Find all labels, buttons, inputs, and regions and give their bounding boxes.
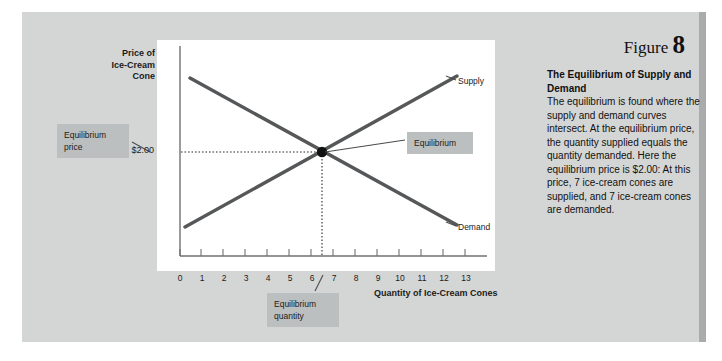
chart-axes-and-curves xyxy=(157,40,495,271)
callout-equilibrium-quantity: Equilibrium quantity xyxy=(267,293,339,327)
x-tick-5: 5 xyxy=(283,273,297,283)
x-tick-1: 1 xyxy=(195,273,209,283)
supply-curve-label: Supply xyxy=(458,76,484,86)
demand-curve-label: Demand xyxy=(458,222,490,232)
equilibrium-point-marker xyxy=(317,147,327,157)
x-tick-11: 11 xyxy=(415,273,429,283)
figure-caption-column: Figure 8 The Equilibrium of Supply and D… xyxy=(547,34,707,217)
x-tick-2: 2 xyxy=(217,273,231,283)
chart-plot-panel xyxy=(157,40,495,271)
x-tick-12: 12 xyxy=(437,273,451,283)
x-tick-0: 0 xyxy=(173,273,187,283)
figure-heading: Figure 8 xyxy=(547,34,707,59)
figure-head-word: Figure xyxy=(624,38,668,57)
figure-card: Price of Ice-Cream Cone Quantity of Ice-… xyxy=(22,12,706,342)
x-tick-3: 3 xyxy=(239,273,253,283)
x-tick-6: 6 xyxy=(305,273,319,283)
x-tick-7: 7 xyxy=(327,273,341,283)
x-tick-13: 13 xyxy=(459,273,473,283)
figure-caption-title: The Equilibrium of Supply and Demand xyxy=(547,68,707,95)
y-axis-tick-label: $2.00 xyxy=(126,145,154,155)
x-tick-10: 10 xyxy=(393,273,407,283)
x-axis-title: Quantity of Ice-Cream Cones xyxy=(374,288,534,300)
callout-equilibrium-price: Equilibrium price xyxy=(57,124,129,158)
x-tick-8: 8 xyxy=(349,273,363,283)
x-tick-9: 9 xyxy=(371,273,385,283)
y-axis-title: Price of Ice-Cream Cone xyxy=(100,48,155,83)
figure-number: 8 xyxy=(673,31,686,58)
callout-equilibrium: Equilibrium xyxy=(407,132,473,154)
x-tick-4: 4 xyxy=(261,273,275,283)
figure-caption-body: The equilibrium is found where the suppl… xyxy=(547,95,707,217)
